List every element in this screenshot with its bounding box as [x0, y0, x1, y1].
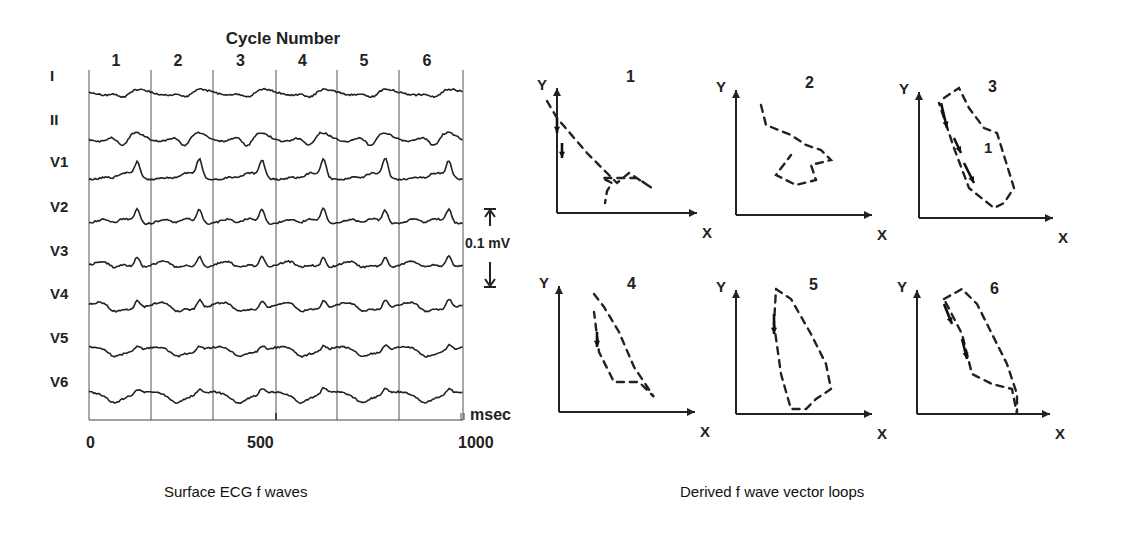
x-tick-label: 0	[86, 434, 95, 451]
lead-label: V6	[50, 373, 68, 390]
y-axis-label: Y	[539, 274, 549, 291]
x-tick-label: 500	[247, 434, 274, 451]
loop-trace	[761, 105, 831, 185]
loop-number-label: 5	[809, 276, 818, 293]
x-axis-label: X	[877, 226, 887, 243]
loop-trace	[594, 294, 654, 397]
lead-label: V3	[50, 242, 68, 259]
loop-trace	[774, 289, 831, 409]
vector-loop-panel: YX1YX2YX31YX4YX5YX6	[537, 68, 1068, 442]
loop-number-label: 3	[988, 78, 997, 95]
loop-trace	[939, 88, 1014, 208]
y-axis-label: Y	[716, 278, 726, 295]
x-axis-arrow-icon	[689, 209, 697, 217]
y-axis-label: Y	[716, 78, 726, 95]
x-axis-label: X	[1055, 425, 1065, 442]
loop-number-label: 2	[805, 74, 814, 91]
figure-canvas: Cycle Number12345605001000msecIIIV1V2V3V…	[0, 0, 1123, 539]
ecg-panel: Cycle Number12345605001000msecIIIV1V2V3V…	[50, 29, 511, 451]
cycle-label: 6	[423, 52, 432, 69]
cycle-label: 2	[174, 52, 183, 69]
x-axis-label: X	[1058, 229, 1068, 246]
loop-annotation: 1	[984, 139, 992, 156]
vector-loop-6: YX6	[897, 278, 1065, 442]
lead-label: V2	[50, 198, 68, 215]
loop-number-label: 6	[990, 280, 999, 297]
x-axis-label: X	[700, 423, 710, 440]
vector-loop-1: YX1	[537, 68, 712, 241]
y-axis-arrow-icon	[553, 88, 561, 96]
y-axis-arrow-icon	[732, 290, 740, 298]
x-axis-label: X	[877, 425, 887, 442]
cycle-label: 4	[298, 52, 307, 69]
lead-label: II	[50, 111, 58, 128]
lead-label: V4	[50, 285, 69, 302]
vector-loop-2: YX2	[716, 74, 887, 243]
y-axis-label: Y	[537, 76, 547, 93]
left-caption: Surface ECG f waves	[164, 483, 307, 500]
x-unit-label: msec	[470, 406, 511, 423]
cycle-label: 5	[360, 52, 369, 69]
vector-loop-4: YX4	[539, 274, 710, 440]
y-axis-arrow-icon	[913, 290, 921, 298]
x-axis-arrow-icon	[687, 408, 695, 416]
x-axis-arrow-icon	[864, 211, 872, 219]
vector-loop-5: YX5	[716, 276, 887, 442]
x-axis-arrow-icon	[864, 410, 872, 418]
x-axis-arrow-icon	[1042, 410, 1050, 418]
loop-number-label: 4	[627, 275, 636, 292]
x-axis-label: X	[702, 224, 712, 241]
loop-trace	[944, 289, 1017, 414]
cycle-label: 1	[112, 52, 121, 69]
lead-label: V1	[50, 153, 68, 170]
y-axis-arrow-icon	[555, 286, 563, 294]
y-axis-arrow-icon	[915, 92, 923, 100]
loop-number-label: 1	[626, 68, 635, 85]
x-tick-label: 1000	[458, 434, 494, 451]
y-axis-label: Y	[899, 80, 909, 97]
cycle-number-title: Cycle Number	[226, 29, 341, 48]
x-axis-arrow-icon	[1045, 214, 1053, 222]
scale-label: 0.1 mV	[465, 235, 511, 251]
y-axis-label: Y	[897, 278, 907, 295]
lead-label: I	[50, 67, 54, 84]
y-axis-arrow-icon	[732, 90, 740, 98]
right-caption: Derived f wave vector loops	[680, 483, 864, 500]
lead-label: V5	[50, 329, 68, 346]
cycle-label: 3	[236, 52, 245, 69]
vector-loop-3: YX31	[899, 78, 1068, 246]
